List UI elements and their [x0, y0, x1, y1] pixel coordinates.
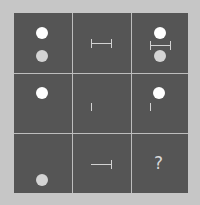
grey-dot-icon	[154, 50, 166, 62]
cell-r2c3[interactable]	[132, 74, 188, 133]
right-cap-icon	[111, 39, 112, 48]
cell-r2c1[interactable]	[14, 74, 72, 133]
cell-r3c2[interactable]	[73, 134, 131, 193]
cell-r1c3[interactable]	[132, 13, 188, 73]
white-dot-icon	[153, 87, 165, 99]
left-cap-icon	[91, 39, 92, 48]
bar-icon	[150, 45, 171, 46]
cell-r3c1[interactable]	[14, 134, 72, 193]
cell-r1c2[interactable]	[73, 13, 131, 73]
cell-r2c2[interactable]	[73, 74, 131, 133]
right-cap-icon	[170, 41, 171, 50]
cell-r3c3-answer[interactable]: ?	[132, 134, 188, 193]
vertical-tick-icon	[91, 103, 92, 111]
vertical-tick-icon	[150, 103, 151, 111]
right-cap-icon	[111, 160, 112, 169]
question-mark: ?	[154, 155, 163, 172]
grey-dot-icon	[36, 50, 48, 62]
left-cap-icon	[150, 41, 151, 50]
grey-dot-icon	[36, 174, 48, 186]
bar-icon	[91, 164, 112, 165]
white-dot-icon	[36, 27, 48, 39]
white-dot-icon	[154, 27, 166, 39]
white-dot-icon	[36, 87, 48, 99]
cell-r1c1[interactable]	[14, 13, 72, 73]
bar-icon	[91, 43, 112, 44]
puzzle-grid: ?	[14, 13, 188, 193]
